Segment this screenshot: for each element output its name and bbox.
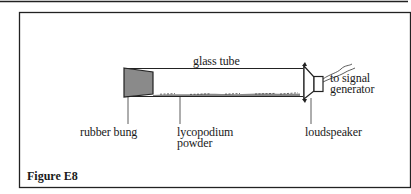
figure-panel: glass tube to signal generator rubber bu… bbox=[0, 0, 411, 194]
label-signal-line2: generator bbox=[330, 83, 374, 95]
rubber-bung bbox=[124, 68, 153, 97]
label-glass-tube: glass tube bbox=[193, 55, 240, 67]
label-powder-line2: powder bbox=[177, 137, 212, 149]
loudspeaker bbox=[302, 62, 323, 103]
label-loudspeaker: loudspeaker bbox=[305, 126, 362, 138]
figure-frame bbox=[20, 13, 411, 188]
label-rubber-bung: rubber bung bbox=[80, 126, 137, 138]
powder-layer bbox=[153, 93, 300, 96]
apparatus-diagram bbox=[0, 0, 411, 194]
figure-caption: Figure E8 bbox=[27, 169, 78, 184]
